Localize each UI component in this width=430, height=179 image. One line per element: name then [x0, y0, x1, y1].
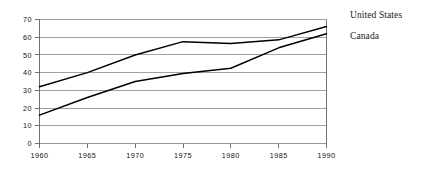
y-tick-label: 70 — [23, 15, 32, 24]
x-tick-label: 1985 — [270, 151, 288, 160]
x-tick-label: 1960 — [31, 151, 49, 160]
y-tick-label: 40 — [23, 68, 32, 77]
x-axis-ticks — [40, 144, 327, 149]
x-tick-label: 1965 — [78, 151, 96, 160]
legend-entry-canada: Canada — [350, 32, 430, 42]
x-tick-label: 1975 — [174, 151, 192, 160]
x-tick-label: 1990 — [318, 151, 336, 160]
x-axis-tick-labels: 1960196519701975198019851990 — [31, 151, 336, 160]
y-tick-label: 60 — [23, 33, 32, 42]
chart-legend: United States Canada — [350, 11, 430, 41]
x-tick-label: 1970 — [126, 151, 144, 160]
y-axis-tick-labels: 010203040506070 — [23, 15, 32, 148]
chart-figure: 1960196519701975198019851990 01020304050… — [0, 0, 430, 179]
series-line-united-states — [40, 27, 327, 87]
legend-entry-united-states: United States — [350, 11, 430, 21]
y-tick-label: 10 — [23, 121, 32, 130]
y-tick-label: 30 — [23, 86, 32, 95]
y-tick-label: 0 — [28, 139, 33, 148]
y-axis-ticks — [35, 20, 40, 144]
y-tick-label: 50 — [23, 51, 32, 60]
x-tick-label: 1980 — [222, 151, 240, 160]
y-tick-label: 20 — [23, 104, 32, 113]
data-series-lines — [40, 27, 327, 116]
